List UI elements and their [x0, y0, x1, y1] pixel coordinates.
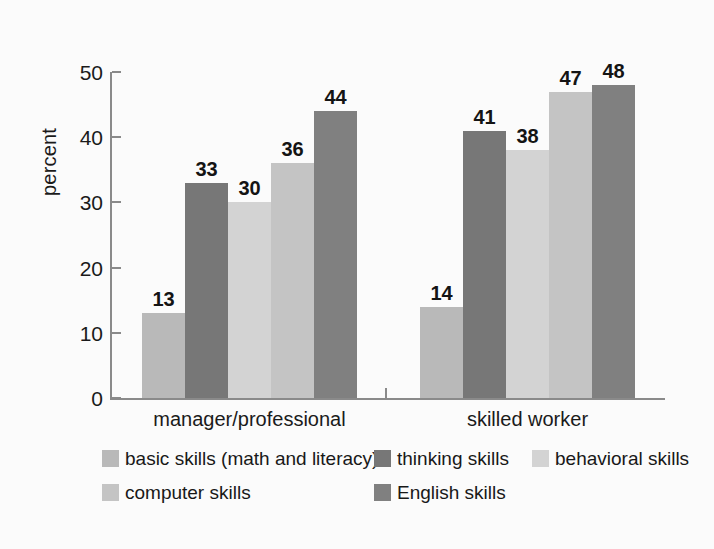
y-axis-tick: 50: [112, 71, 121, 73]
bar-value-label: 33: [195, 159, 217, 179]
bar: 41: [463, 131, 506, 398]
legend-item[interactable]: thinking skills: [374, 449, 509, 468]
x-axis-category-label: manager/professional: [153, 408, 345, 431]
bar-value-label: 47: [559, 68, 581, 88]
x-axis-category-label: skilled worker: [467, 408, 588, 431]
legend-swatch-icon: [102, 484, 119, 501]
legend-label: basic skills (math and literacy): [125, 449, 378, 468]
bar: 33: [185, 183, 228, 398]
bar-value-label: 36: [281, 139, 303, 159]
bar-value-label: 44: [324, 87, 346, 107]
x-axis-line: [110, 398, 665, 400]
bar: 13: [142, 313, 185, 398]
legend-row: basic skills (math and literacy)thinking…: [102, 449, 702, 479]
legend-swatch-icon: [102, 450, 119, 467]
bar: 48: [592, 85, 635, 398]
legend-item[interactable]: behavioral skills: [532, 449, 689, 468]
y-axis-tick-label: 50: [80, 62, 103, 83]
y-axis-tick: 0: [112, 397, 121, 399]
y-axis-line: [110, 72, 112, 398]
legend-item[interactable]: basic skills (math and literacy): [102, 449, 378, 468]
legend-label: English skills: [397, 483, 506, 502]
legend-swatch-icon: [374, 484, 391, 501]
y-axis-tick: 20: [112, 267, 121, 269]
y-axis-tick: 10: [112, 332, 121, 334]
y-axis-tick-label: 30: [80, 192, 103, 213]
bar-value-label: 41: [473, 107, 495, 127]
bar: 14: [420, 307, 463, 398]
bar-value-label: 13: [152, 289, 174, 309]
bar: 44: [314, 111, 357, 398]
legend-row: computer skillsEnglish skills: [102, 483, 702, 513]
bar: 38: [506, 150, 549, 398]
legend-item[interactable]: English skills: [374, 483, 506, 502]
bar: 30: [228, 202, 271, 398]
y-axis-tick-label: 0: [91, 388, 103, 409]
legend-label: behavioral skills: [555, 449, 689, 468]
bar-value-label: 48: [602, 61, 624, 81]
y-axis-tick-label: 20: [80, 257, 103, 278]
legend-swatch-icon: [532, 450, 549, 467]
y-axis-tick: 40: [112, 136, 121, 138]
legend-swatch-icon: [374, 450, 391, 467]
bar-value-label: 14: [430, 283, 452, 303]
y-axis-tick-label: 40: [80, 127, 103, 148]
bar: 47: [549, 92, 592, 398]
bar-chart-figure: percent 01020304050 13333036441441384748…: [0, 0, 714, 549]
group-separator-tick: [385, 388, 387, 398]
y-axis-title: percent: [38, 128, 61, 196]
bar: 36: [271, 163, 314, 398]
bar-value-label: 38: [516, 126, 538, 146]
y-axis-tick-label: 10: [80, 322, 103, 343]
legend-label: computer skills: [125, 483, 251, 502]
legend-label: thinking skills: [397, 449, 509, 468]
plot-area: 01020304050 13333036441441384748: [110, 72, 665, 398]
legend-item[interactable]: computer skills: [102, 483, 251, 502]
y-axis-tick: 30: [112, 201, 121, 203]
bar-value-label: 30: [238, 178, 260, 198]
